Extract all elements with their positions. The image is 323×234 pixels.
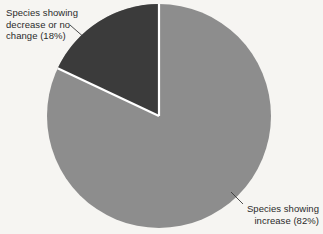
pie-label-increase: Species showing increase (82%) [247,203,319,226]
pie-label-increase-line-2: increase (82%) [247,215,319,227]
pie-label-decrease-line-3: change (18%) [6,30,78,42]
pie-label-decrease-line-2: decrease or no [6,19,78,31]
pie-label-increase-line-1: Species showing [247,203,319,215]
pie-label-decrease-line-1: Species showing [6,7,78,19]
pie-chart-figure: Species showing decrease or no change (1… [0,0,323,234]
pie-label-decrease-or-no-change: Species showing decrease or no change (1… [6,7,78,42]
